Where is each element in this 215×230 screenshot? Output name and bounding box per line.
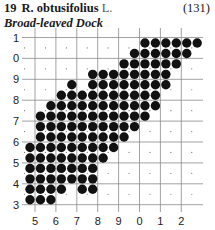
cell-centre-marker — [66, 194, 67, 195]
cell-centre-marker — [128, 110, 129, 111]
occurrence-dot — [151, 91, 160, 100]
occurrence-dot — [46, 122, 55, 131]
cell-centre-marker — [87, 152, 88, 153]
occurrence-dot — [88, 111, 97, 120]
occurrence-dot — [88, 153, 97, 162]
occurrence-dot — [98, 132, 107, 141]
cell-centre-marker — [149, 173, 150, 174]
occurrence-dot — [130, 70, 139, 79]
occurrence-dot — [88, 101, 97, 110]
occurrence-dot — [67, 91, 76, 100]
cell-centre-marker — [191, 68, 192, 69]
cell-centre-marker — [66, 89, 67, 90]
occurrence-dot — [57, 174, 66, 183]
occurrence-dot — [78, 185, 87, 194]
occurrence-dot — [36, 153, 45, 162]
occurrence-dot — [151, 38, 160, 47]
occurrence-dot — [46, 111, 55, 120]
cell-centre-marker — [66, 110, 67, 111]
cell-centre-marker — [128, 131, 129, 132]
occurrence-dot — [67, 122, 76, 131]
occurrence-dot — [119, 70, 128, 79]
cell-centre-marker — [87, 68, 88, 69]
occurrence-dot — [119, 59, 128, 68]
y-axis-label: 9 — [13, 73, 19, 85]
x-axis-label: 0 — [136, 215, 142, 227]
occurrence-dot — [172, 59, 181, 68]
cell-centre-marker — [170, 110, 171, 111]
occurrence-dot — [67, 143, 76, 152]
cell-centre-marker — [128, 68, 129, 69]
occurrence-dot — [140, 70, 149, 79]
x-axis-label: 7 — [74, 215, 80, 227]
cell-centre-marker — [45, 173, 46, 174]
occurrence-dot — [36, 164, 45, 173]
y-axis-label: 6 — [13, 136, 19, 148]
cell-centre-marker — [170, 131, 171, 132]
cell-centre-marker — [149, 131, 150, 132]
occurrence-dot — [130, 59, 139, 68]
occurrence-dot — [109, 132, 118, 141]
occurrence-dot — [130, 80, 139, 89]
x-axis-label: 8 — [95, 215, 101, 227]
cell-centre-marker — [149, 110, 150, 111]
cell-centre-marker — [66, 152, 67, 153]
cell-centre-marker — [87, 110, 88, 111]
occurrence-dot — [46, 132, 55, 141]
occurrence-dot — [88, 70, 97, 79]
cell-centre-marker — [87, 173, 88, 174]
cell-centre-marker — [66, 47, 67, 48]
cell-centre-marker — [45, 194, 46, 195]
cell-centre-marker — [128, 152, 129, 153]
cell-centre-marker — [45, 89, 46, 90]
y-axis-label: 5 — [13, 157, 19, 169]
cell-centre-marker — [45, 152, 46, 153]
occurrence-dot — [88, 143, 97, 152]
occurrence-dot — [151, 80, 160, 89]
cell-centre-marker — [128, 89, 129, 90]
occurrence-dot — [25, 153, 34, 162]
occurrence-dot — [140, 101, 149, 110]
occurrence-dot — [78, 174, 87, 183]
cell-centre-marker — [66, 68, 67, 69]
occurrence-dot — [130, 91, 139, 100]
cell-centre-marker — [24, 194, 25, 195]
cell-centre-marker — [128, 194, 129, 195]
cell-centre-marker — [128, 47, 129, 48]
occurrence-dot — [151, 70, 160, 79]
cell-centre-marker — [191, 110, 192, 111]
occurrence-dot — [119, 122, 128, 131]
occurrence-dot — [98, 101, 107, 110]
occurrence-dot — [67, 101, 76, 110]
cell-centre-marker — [108, 89, 109, 90]
y-axis-label: 3 — [13, 199, 19, 211]
occurrence-dot — [67, 174, 76, 183]
occurrence-dot — [67, 111, 76, 120]
occurrence-dot — [130, 122, 139, 131]
occurrence-dot — [88, 164, 97, 173]
occurrence-dot — [67, 132, 76, 141]
occurrence-dot — [57, 185, 66, 194]
y-axis-label: 0 — [13, 52, 19, 64]
occurrence-dot — [130, 111, 139, 120]
occurrence-dot — [98, 80, 107, 89]
occurrence-dot — [119, 101, 128, 110]
occurrence-dot — [98, 91, 107, 100]
cell-centre-marker — [170, 194, 171, 195]
occurrence-dot — [109, 70, 118, 79]
occurrence-dot — [88, 174, 97, 183]
occurrence-dot — [140, 49, 149, 58]
cell-centre-marker — [149, 89, 150, 90]
occurrence-dot — [98, 70, 107, 79]
cell-centre-marker — [128, 173, 129, 174]
occurrence-dot — [57, 153, 66, 162]
y-axis-label: 1 — [13, 32, 19, 44]
occurrence-dot — [88, 80, 97, 89]
occurrence-dot — [25, 185, 34, 194]
occurrence-dot — [172, 49, 181, 58]
occurrence-dot — [161, 59, 170, 68]
cell-centre-marker — [24, 47, 25, 48]
cell-centre-marker — [191, 89, 192, 90]
occurrence-dot — [140, 111, 149, 120]
cell-centre-marker — [108, 173, 109, 174]
